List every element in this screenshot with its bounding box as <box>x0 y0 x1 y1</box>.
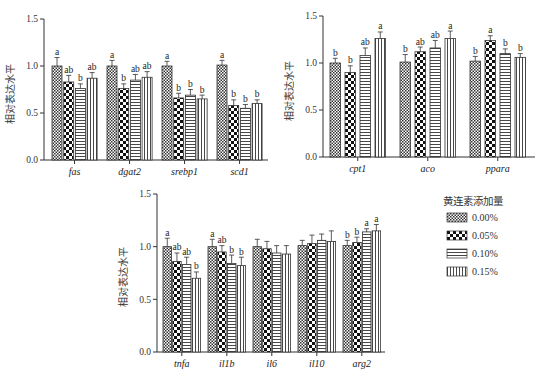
bar-vertical-lines <box>192 278 201 352</box>
significance-letter: b <box>239 247 244 257</box>
bar-fine-checker <box>330 63 341 157</box>
bar-coarse-checker <box>218 252 227 352</box>
bar-vertical-lines <box>282 254 291 352</box>
x-category-label: scd1 <box>230 166 248 177</box>
bar-vertical-lines <box>142 77 152 160</box>
bar-horizontal-lines <box>182 265 191 352</box>
bar-vertical-lines <box>515 57 526 157</box>
y-axis-label: 相对表达水平 <box>117 247 129 307</box>
y-tick-label: 1.0 <box>305 58 317 68</box>
significance-letter: b <box>348 55 353 65</box>
significance-letter: b <box>176 83 181 93</box>
x-category-label: dgat2 <box>118 166 141 177</box>
legend-label: 0.00% <box>472 212 498 223</box>
y-axis-label: 相对表达水平 <box>283 61 295 121</box>
legend-item-3: 0.15% <box>447 266 498 277</box>
significance-letter: b <box>229 245 234 255</box>
figure-canvas: 0.00.51.01.5相对表达水平aabbabfasabababdgat2ab… <box>0 0 541 379</box>
significance-letter: ab <box>361 37 370 47</box>
significance-letter: a <box>110 50 115 60</box>
x-category-label: il10 <box>309 358 325 369</box>
legend-swatch-coarse-checker <box>447 231 467 240</box>
bar-coarse-checker <box>353 242 362 352</box>
significance-letter: ab <box>431 30 440 40</box>
bar-group-aco: bababa <box>400 21 456 157</box>
y-tick-label: 0.0 <box>139 347 151 357</box>
bar-coarse-checker <box>263 249 272 352</box>
significance-letter: ab <box>131 64 140 74</box>
legend-title: 黄连素添加量 <box>443 195 504 207</box>
significance-letter: a <box>378 21 383 31</box>
bar-group-fas: aabbab <box>52 47 97 160</box>
y-tick-label: 0.5 <box>26 108 38 118</box>
bar-horizontal-lines <box>500 54 511 157</box>
significance-letter: a <box>165 228 170 238</box>
x-category-label: srebp1 <box>171 166 198 177</box>
bar-horizontal-lines <box>185 95 195 160</box>
significance-letter: a <box>488 25 493 35</box>
bar-fine-checker <box>208 247 217 352</box>
significance-letter: a <box>220 50 225 60</box>
significance-letter: ab <box>182 247 191 257</box>
significance-letter: b <box>231 89 236 99</box>
bar-coarse-checker <box>119 89 129 160</box>
bar-vertical-lines <box>445 39 456 157</box>
bar-horizontal-lines <box>130 80 140 160</box>
bar-group-arg2: bbaa <box>343 214 381 352</box>
significance-letter: b <box>503 38 508 48</box>
bar-vertical-lines <box>197 99 207 160</box>
y-tick-label: 1.0 <box>26 61 38 71</box>
significance-letter: b <box>473 46 478 56</box>
bar-fine-checker <box>217 65 227 160</box>
bar-fine-checker <box>163 247 172 352</box>
bar-horizontal-lines <box>430 48 441 157</box>
significance-letter: b <box>345 230 350 240</box>
significance-letter: b <box>194 261 199 271</box>
y-axis-label: 相对表达水平 <box>4 64 16 124</box>
bar-horizontal-lines <box>75 89 85 160</box>
bar-group-il1b: aabbb <box>208 229 246 352</box>
bar-vertical-lines <box>237 266 246 352</box>
significance-letter: a <box>55 47 60 57</box>
significance-letter: b <box>518 43 523 53</box>
x-category-label: aco <box>421 163 435 174</box>
bar-coarse-checker <box>345 72 356 157</box>
x-category-label: il1b <box>219 358 235 369</box>
significance-letter: ab <box>143 61 152 71</box>
legend-swatch-fine-checker <box>447 213 467 222</box>
significance-letter: ab <box>88 62 97 72</box>
significance-letter: b <box>188 79 193 89</box>
legend-label: 0.05% <box>472 230 498 241</box>
significance-letter: ab <box>416 37 425 47</box>
bar-group-il10 <box>298 231 336 352</box>
significance-letter: b <box>78 73 83 83</box>
significance-letter: ab <box>217 235 226 245</box>
bar-group-dgat2: ababab <box>107 50 152 160</box>
legend-item-1: 0.05% <box>447 230 498 241</box>
y-tick-label: 0.0 <box>305 152 317 162</box>
significance-letter: b <box>333 48 338 58</box>
bar-fine-checker <box>470 61 481 157</box>
bar-fine-checker <box>52 66 62 160</box>
significance-letter: b <box>121 73 126 83</box>
significance-letter: ab <box>172 242 181 252</box>
significance-letter: a <box>165 51 170 61</box>
bar-fine-checker <box>400 62 411 157</box>
legend-swatch-vertical-lines <box>447 267 467 276</box>
significance-letter: b <box>403 44 408 54</box>
bar-vertical-lines <box>327 241 336 352</box>
significance-letter: ab <box>64 65 73 75</box>
bar-fine-checker <box>162 66 172 160</box>
x-category-label: arg2 <box>353 358 372 369</box>
bar-coarse-checker <box>174 98 184 160</box>
x-category-label: ppara <box>485 163 510 174</box>
bar-horizontal-lines <box>360 55 371 157</box>
significance-letter: a <box>448 21 453 31</box>
significance-letter: b <box>355 227 360 237</box>
y-tick-label: 1.0 <box>139 242 151 252</box>
y-tick-label: 1.5 <box>305 11 317 21</box>
inflammation-chart: 0.00.51.01.5相对表达水平aababbtnfaaabbbil1bil6… <box>117 189 385 369</box>
bar-group-srebp1: abbb <box>162 51 207 160</box>
y-tick-label: 1.5 <box>139 189 151 199</box>
legend-item-2: 0.10% <box>447 248 498 259</box>
